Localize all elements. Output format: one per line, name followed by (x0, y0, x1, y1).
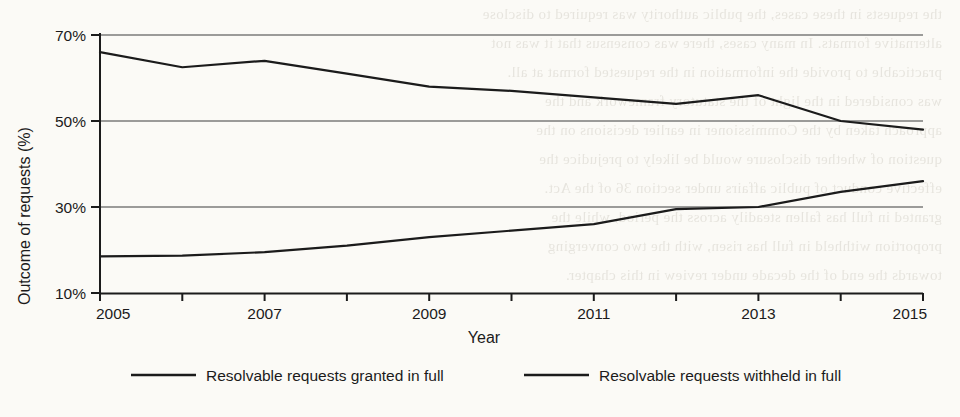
y-tick-label-70: 70% (55, 27, 86, 44)
gridlines (100, 35, 923, 207)
legend-label-withheld: Resolvable requests withheld in full (599, 367, 841, 384)
y-axis-title: Outcome of requests (%) (16, 127, 33, 305)
line-chart: Outcome of requests (%) 10%30%50%70% 200… (0, 0, 960, 417)
x-tick-label-2015: 2015 (893, 305, 927, 322)
y-tick-label-50: 50% (55, 113, 86, 130)
series-line-withheld (100, 181, 923, 256)
y-tick-label-30: 30% (55, 199, 86, 216)
x-tick-label-2007: 2007 (247, 305, 281, 322)
y-tick-label-10: 10% (55, 285, 86, 302)
y-axis-tick-labels: 10%30%50%70% (55, 27, 86, 302)
chart-legend: Resolvable requests granted in full Reso… (131, 367, 841, 384)
x-tick-label-2013: 2013 (741, 305, 775, 322)
x-tick-label-2011: 2011 (577, 305, 610, 322)
x-tick-label-2009: 2009 (412, 305, 446, 322)
x-tick-label-2005: 2005 (96, 305, 130, 322)
series-line-granted (100, 52, 923, 129)
x-axis-tick-labels: 200520072009201120132015 (96, 305, 927, 322)
chart-canvas: Outcome of requests (%) 10%30%50%70% 200… (0, 0, 960, 417)
legend-label-granted: Resolvable requests granted in full (206, 367, 444, 384)
x-axis-title: Year (468, 329, 501, 346)
y-axis-ticks (91, 35, 100, 293)
series-lines (100, 52, 923, 256)
